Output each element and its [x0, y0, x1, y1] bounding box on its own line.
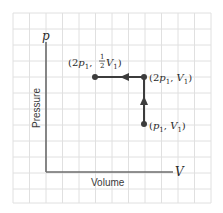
y-axis-label: Pressure: [31, 88, 42, 128]
fraction-denominator: 2: [100, 62, 104, 70]
process-path: [95, 77, 144, 124]
x-axis-label: Volume: [91, 177, 125, 188]
x-axis-symbol: V: [175, 165, 185, 179]
point-start: [141, 121, 147, 127]
fraction-numerator: 1: [100, 53, 104, 61]
svg-text:V1): V1): [106, 57, 122, 71]
label-middle: (2p1, V1): [149, 72, 192, 86]
arrow-left-icon: [120, 73, 129, 81]
label-end: (2p1, 1 2 V1): [68, 53, 122, 71]
point-end: [92, 74, 98, 80]
arrow-up-icon: [140, 96, 148, 105]
label-start: (p1, V1): [149, 120, 186, 134]
pv-diagram-svg: p V Volume Pressure (p1, V1) (2p1, V1) (…: [0, 0, 223, 213]
point-middle: [141, 74, 147, 80]
svg-text:(2p1,: (2p1,: [68, 57, 92, 71]
y-axis-symbol: p: [42, 29, 50, 43]
pv-diagram: p V Volume Pressure (p1, V1) (2p1, V1) (…: [0, 0, 223, 213]
